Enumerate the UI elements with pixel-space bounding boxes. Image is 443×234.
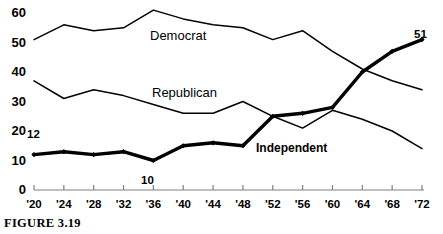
y-axis-tick-20: 20	[0, 124, 26, 137]
y-axis-tick-60: 60	[0, 6, 26, 19]
y-axis-tick-50: 50	[0, 36, 26, 49]
y-axis-tick-0: 0	[0, 183, 26, 196]
x-axis-tick-72: '72	[405, 198, 439, 210]
series-line-independent	[34, 40, 422, 161]
series-label-democrat: Democrat	[150, 29, 206, 42]
y-axis-tick-40: 40	[0, 65, 26, 78]
figure-container: 0102030405060 '20'24'28'32'36'40'44'48'5…	[0, 0, 443, 234]
series-line-democrat	[34, 10, 422, 90]
y-axis-tick-10: 10	[0, 154, 26, 167]
chart-plot-area: 0102030405060 '20'24'28'32'36'40'44'48'5…	[0, 0, 443, 234]
x-axis-ticks	[34, 185, 422, 190]
series-label-independent: Independent	[256, 142, 327, 155]
y-axis-tick-30: 30	[0, 95, 26, 108]
annotation-start-value: 12	[27, 128, 40, 140]
figure-caption: FIGURE 3.19	[4, 216, 81, 230]
series-line-republican	[34, 81, 422, 149]
series-label-republican: Republican	[152, 86, 217, 99]
series-group	[31, 10, 424, 163]
annotation-end-value: 51	[414, 28, 427, 40]
axis-group	[34, 185, 424, 190]
annotation-min-value: 10	[141, 174, 154, 186]
